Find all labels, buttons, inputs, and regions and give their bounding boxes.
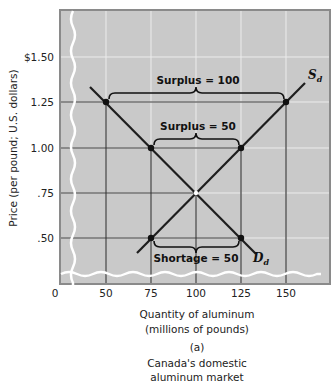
svg-text:100: 100	[186, 287, 206, 299]
svg-text:0: 0	[52, 287, 59, 299]
annotation-surplus-50: Surplus = 50	[160, 120, 236, 132]
annotation-surplus-100: Surplus = 100	[156, 74, 239, 86]
svg-text:$1.50: $1.50	[24, 51, 54, 63]
svg-text:125: 125	[231, 287, 251, 299]
annotation-shortage-50: Shortage = 50	[154, 252, 239, 264]
y-axis-label: Price (per pound; U.S. dollars)	[7, 69, 19, 226]
panel-label: (a)	[100, 340, 294, 355]
svg-text:.75: .75	[37, 187, 54, 199]
svg-text:50: 50	[99, 287, 112, 299]
x-axis-units: (millions of pounds)	[100, 322, 294, 337]
x-axis-label: Quantity of aluminum	[100, 307, 294, 322]
svg-text:75: 75	[144, 287, 157, 299]
svg-text:.50: .50	[37, 232, 54, 244]
y-axis-ticks: $1.50 1.25 1.00 .75 .50	[24, 51, 54, 244]
plot-area	[60, 10, 330, 284]
svg-text:1.00: 1.00	[31, 142, 54, 154]
chart-title: Canada's domesticaluminum market	[100, 356, 294, 384]
equilibrium-point	[194, 191, 198, 195]
x-axis-ticks: 0 50 75 100 125 150	[52, 287, 296, 299]
svg-text:150: 150	[276, 287, 296, 299]
svg-text:1.25: 1.25	[31, 96, 54, 108]
